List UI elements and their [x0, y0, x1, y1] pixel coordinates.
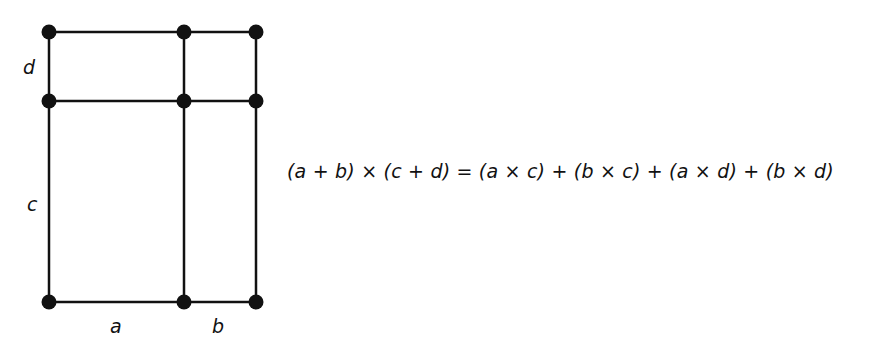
distributive-equation: (a + b) × (c + d) = (a × c) + (b × c) + … — [287, 160, 834, 182]
node — [249, 295, 264, 310]
node — [177, 295, 192, 310]
node — [177, 25, 192, 40]
node — [249, 25, 264, 40]
node — [42, 25, 57, 40]
node — [177, 94, 192, 109]
node — [249, 94, 264, 109]
label-d: d — [23, 56, 35, 78]
label-c: c — [27, 193, 37, 215]
label-b: b — [212, 315, 224, 337]
node — [42, 295, 57, 310]
node — [42, 94, 57, 109]
label-a: a — [110, 315, 122, 337]
